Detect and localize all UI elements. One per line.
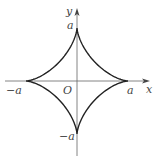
origin-label: O <box>63 84 72 97</box>
astroid-diagram: y x O a −a a −a <box>0 0 156 168</box>
tick-pos-x: a <box>127 84 134 97</box>
tick-pos-y: a <box>67 19 74 32</box>
tick-neg-y: −a <box>59 130 75 143</box>
y-axis-label: y <box>65 5 73 18</box>
x-axis-label: x <box>146 83 153 96</box>
tick-neg-x: −a <box>6 84 22 97</box>
